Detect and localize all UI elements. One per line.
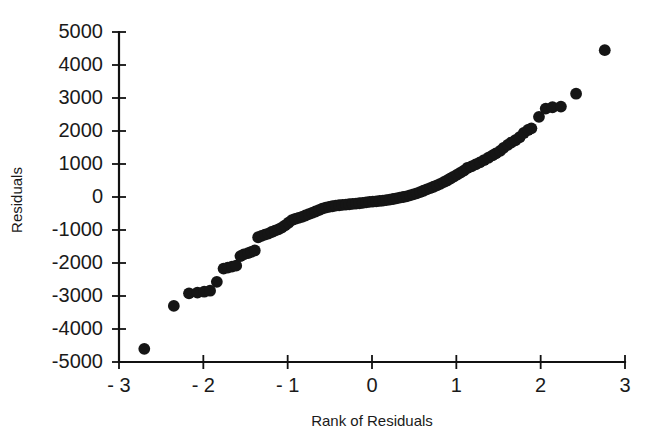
data-point <box>570 88 582 100</box>
y-tick-label: -2000 <box>52 251 103 273</box>
y-tick-label: -1000 <box>52 218 103 240</box>
data-point <box>138 343 150 355</box>
x-tick-label: 3 <box>619 374 630 396</box>
x-axis-label: Rank of Residuals <box>311 412 433 429</box>
residual-qq-plot-figure: -5000-4000-3000-2000-1000010002000300040… <box>0 0 648 447</box>
data-point <box>168 300 180 312</box>
y-axis-label: Residuals <box>8 167 25 233</box>
x-tick-label: - 1 <box>276 374 299 396</box>
x-tick-label: - 3 <box>107 374 130 396</box>
x-tick-label: 2 <box>535 374 546 396</box>
y-tick-label: 2000 <box>59 119 104 141</box>
y-tick-label: -5000 <box>52 350 103 372</box>
y-tick-label: -4000 <box>52 317 103 339</box>
y-tick-label: 3000 <box>59 86 104 108</box>
data-point <box>525 122 537 134</box>
x-tick-label: - 2 <box>192 374 215 396</box>
data-point <box>555 101 567 113</box>
y-tick-label: -3000 <box>52 284 103 306</box>
data-point <box>211 276 223 288</box>
y-tick-label: 5000 <box>59 20 104 42</box>
x-tick-label: 1 <box>451 374 462 396</box>
y-tick-label: 0 <box>92 185 103 207</box>
x-tick-label: 0 <box>366 374 377 396</box>
data-point <box>249 245 261 257</box>
y-tick-label: 4000 <box>59 53 104 75</box>
data-point <box>599 44 611 56</box>
y-tick-label: 1000 <box>59 152 104 174</box>
scatter-plot-canvas: -5000-4000-3000-2000-1000010002000300040… <box>0 0 648 447</box>
